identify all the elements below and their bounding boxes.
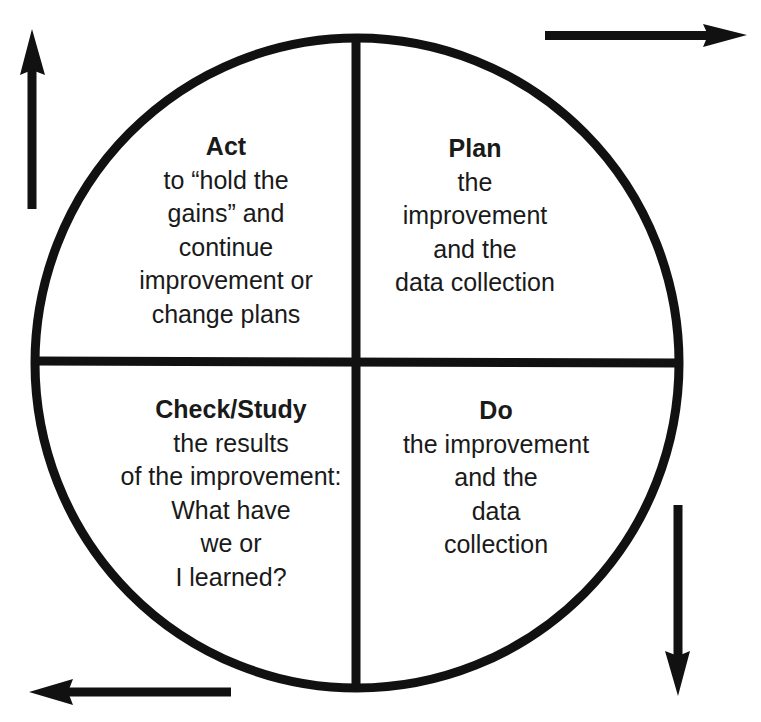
quadrant-plan: Plan the improvement and the data collec… [395, 132, 555, 300]
quadrant-line: I learned? [121, 561, 342, 595]
quadrant-line: the results [121, 427, 342, 461]
arrow-up-icon [20, 29, 45, 209]
quadrant-title-check-study: Check/Study [121, 393, 342, 427]
quadrant-do: Do the improvement and the data collecti… [403, 394, 589, 562]
quadrant-line: we or [121, 527, 342, 561]
quadrant-title-do: Do [403, 394, 589, 428]
quadrant-line: of the improvement: [121, 460, 342, 494]
quadrant-line: data [403, 495, 589, 529]
quadrant-act: Act to “hold the gains” and continue imp… [139, 130, 313, 331]
quadrant-line: to “hold the [139, 164, 313, 198]
quadrant-line: improvement or [139, 264, 313, 298]
quadrant-line: the [395, 166, 555, 200]
arrow-left-icon [29, 679, 231, 705]
quadrant-line: and the [395, 233, 555, 267]
arrow-right-icon [545, 24, 747, 47]
quadrant-title-act: Act [139, 130, 313, 164]
arrow-down-icon [665, 505, 690, 696]
pdsa-cycle-diagram [0, 0, 761, 722]
quadrant-line: change plans [139, 298, 313, 332]
quadrant-line: continue [139, 231, 313, 265]
quadrant-line: and the [403, 461, 589, 495]
quadrant-check-study: Check/Study the results of the improveme… [121, 393, 342, 594]
quadrant-line: the improvement [403, 428, 589, 462]
quadrant-line: data collection [395, 266, 555, 300]
quadrant-line: What have [121, 494, 342, 528]
quadrant-line: improvement [395, 199, 555, 233]
horizontal-divider [35, 361, 679, 363]
quadrant-line: gains” and [139, 197, 313, 231]
quadrant-line: collection [403, 528, 589, 562]
quadrant-title-plan: Plan [395, 132, 555, 166]
